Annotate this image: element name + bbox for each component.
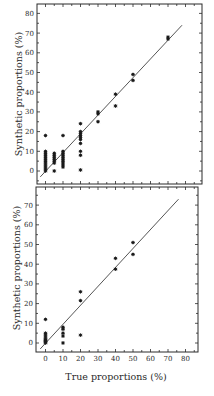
data-point-marker bbox=[114, 104, 118, 108]
data-point-marker bbox=[166, 37, 170, 41]
x-tick-label: 30 bbox=[94, 355, 103, 363]
data-point-marker bbox=[61, 334, 65, 338]
x-tick-label: 60 bbox=[146, 355, 155, 363]
bottom-y-axis-title: Synthetic proportions (%) bbox=[11, 206, 22, 330]
data-point-marker bbox=[131, 73, 135, 77]
data-point-marker bbox=[79, 153, 83, 157]
data-point-marker bbox=[61, 341, 65, 345]
data-point-marker bbox=[79, 299, 83, 303]
data-point-marker bbox=[96, 112, 100, 116]
y-tick-label: 10 bbox=[25, 148, 34, 156]
y-tick-label: 80 bbox=[25, 10, 34, 18]
x-tick-label: 0 bbox=[43, 355, 47, 363]
y-tick-label: 60 bbox=[24, 221, 33, 229]
bottom-panel: 01020304050607001020304050607080 bbox=[24, 187, 198, 363]
data-point-marker bbox=[61, 327, 65, 331]
data-point-marker bbox=[44, 134, 48, 138]
x-axis-title: True proportions (%) bbox=[65, 371, 166, 382]
y-tick-label: 0 bbox=[29, 339, 33, 347]
y-tick-label: 0 bbox=[30, 167, 34, 175]
y-tick-label: 60 bbox=[25, 49, 34, 57]
data-point-marker bbox=[131, 252, 135, 256]
data-point-marker bbox=[79, 142, 83, 146]
data-point-marker bbox=[79, 290, 83, 294]
y-tick-label: 50 bbox=[25, 69, 34, 77]
scatter-plots: 01020304050607080 0102030405060700102030… bbox=[0, 0, 214, 396]
data-point-marker bbox=[79, 122, 83, 126]
data-point-marker bbox=[79, 168, 83, 172]
top-panel: 01020304050607080 bbox=[25, 4, 202, 184]
data-point-marker bbox=[44, 317, 48, 321]
y-tick-label: 50 bbox=[24, 241, 33, 249]
data-point-marker bbox=[79, 333, 83, 337]
figure: 01020304050607080 0102030405060700102030… bbox=[0, 0, 214, 396]
y-tick-label: 70 bbox=[25, 30, 34, 38]
y-tick-label: 40 bbox=[25, 89, 34, 97]
data-point-marker bbox=[131, 241, 135, 245]
top-y-axis-title: Synthetic proportions (%) bbox=[13, 32, 24, 156]
data-point-marker bbox=[44, 341, 48, 345]
data-point-marker bbox=[52, 161, 56, 165]
data-point-marker bbox=[96, 120, 100, 124]
x-tick-label: 80 bbox=[181, 355, 190, 363]
y-tick-label: 30 bbox=[25, 108, 34, 116]
x-tick-label: 50 bbox=[129, 355, 138, 363]
y-tick-label: 70 bbox=[24, 202, 33, 210]
y-tick-label: 30 bbox=[24, 280, 33, 288]
data-point-marker bbox=[61, 134, 65, 138]
data-point-marker bbox=[79, 138, 83, 142]
data-point-marker bbox=[52, 169, 56, 173]
y-tick-label: 10 bbox=[24, 320, 33, 328]
data-point-marker bbox=[131, 78, 135, 82]
data-point-marker bbox=[79, 149, 83, 153]
reference-line bbox=[40, 199, 178, 349]
data-point-marker bbox=[114, 256, 118, 260]
data-point-marker bbox=[114, 92, 118, 96]
data-point-marker bbox=[61, 165, 65, 169]
x-tick-label: 70 bbox=[164, 355, 173, 363]
x-tick-label: 10 bbox=[59, 355, 68, 363]
y-tick-label: 20 bbox=[24, 300, 33, 308]
y-tick-label: 40 bbox=[24, 261, 33, 269]
data-point-marker bbox=[114, 267, 118, 271]
y-tick-label: 20 bbox=[25, 128, 34, 136]
x-tick-label: 20 bbox=[76, 355, 85, 363]
data-point-marker bbox=[44, 169, 48, 173]
x-tick-label: 40 bbox=[111, 355, 120, 363]
